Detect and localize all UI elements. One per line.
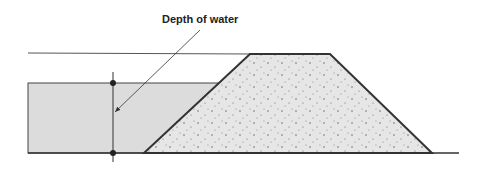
embankment-cross-section-diagram	[0, 0, 479, 170]
crest-level-line	[28, 53, 252, 54]
water-bottom-marker	[110, 150, 116, 156]
water-surface-marker	[110, 80, 116, 86]
